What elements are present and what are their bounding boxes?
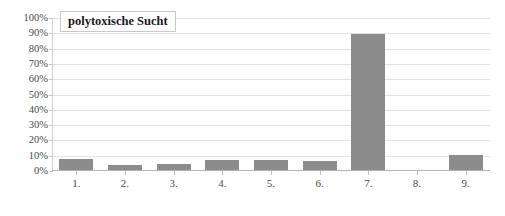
y-axis-tick-mark [49, 33, 52, 34]
y-axis: 100%90%80%70%60%50%40%30%20%10%0% [0, 18, 48, 171]
y-axis-tick-label: 0% [0, 166, 48, 176]
x-axis-tick-mark [174, 171, 175, 175]
x-axis-tick-mark [125, 171, 126, 175]
bar-slot [295, 18, 344, 170]
y-axis-tick-label: 10% [0, 151, 48, 161]
bar-chart: 100%90%80%70%60%50%40%30%20%10%0% 1.2.3.… [0, 0, 505, 216]
y-axis-tick-mark [49, 140, 52, 141]
bar-slot [101, 18, 150, 170]
y-axis-tick-label: 50% [0, 90, 48, 100]
chart-title: polytoxische Sucht [60, 11, 176, 32]
x-axis-tick-label: 5. [247, 176, 296, 190]
y-axis-tick-label: 100% [0, 13, 48, 23]
y-axis-tick-label: 60% [0, 74, 48, 84]
y-axis-tick-label: 80% [0, 44, 48, 54]
x-axis: 1.2.3.4.5.6.7.8.9. [52, 176, 490, 200]
x-axis-tick-label: 1. [52, 176, 101, 190]
bar-slot [393, 18, 442, 170]
y-axis-tick-mark [49, 156, 52, 157]
y-axis-tick-mark [49, 49, 52, 50]
bar[interactable] [254, 160, 288, 170]
y-axis-tick-label: 30% [0, 120, 48, 130]
x-axis-tick-label: 6. [295, 176, 344, 190]
x-axis-tick-mark [76, 171, 77, 175]
y-axis-tick-mark [49, 95, 52, 96]
bar-slot [52, 18, 101, 170]
bars-layer [52, 18, 490, 171]
plot-area [52, 18, 490, 171]
x-axis-tick-label: 9. [441, 176, 490, 190]
bar[interactable] [205, 160, 239, 170]
bar[interactable] [449, 155, 483, 170]
y-axis-tick-label: 20% [0, 135, 48, 145]
bar-slot [441, 18, 490, 170]
x-axis-tick-label: 7. [344, 176, 393, 190]
bar[interactable] [351, 34, 385, 170]
y-axis-tick-mark [49, 171, 52, 172]
x-axis-tick-label: 8. [393, 176, 442, 190]
x-axis-tick-mark [368, 171, 369, 175]
y-axis-tick-label: 70% [0, 59, 48, 69]
y-axis-tick-mark [49, 125, 52, 126]
y-axis-tick-label: 90% [0, 28, 48, 38]
x-axis-tick-label: 3. [149, 176, 198, 190]
x-axis-tick-label: 4. [198, 176, 247, 190]
x-axis-tick-mark [222, 171, 223, 175]
x-axis-tick-label: 2. [101, 176, 150, 190]
x-axis-tick-mark [466, 171, 467, 175]
bar-slot [198, 18, 247, 170]
bar[interactable] [303, 161, 337, 170]
y-axis-tick-mark [49, 110, 52, 111]
bar[interactable] [59, 159, 93, 170]
bar-slot [247, 18, 296, 170]
y-axis-tick-mark [49, 64, 52, 65]
bar-slot [149, 18, 198, 170]
y-axis-tick-label: 40% [0, 105, 48, 115]
bar-slot [344, 18, 393, 170]
y-axis-tick-mark [49, 79, 52, 80]
x-axis-tick-mark [320, 171, 321, 175]
y-axis-tick-mark [49, 18, 52, 19]
x-axis-tick-mark [271, 171, 272, 175]
x-axis-tick-mark [417, 171, 418, 175]
